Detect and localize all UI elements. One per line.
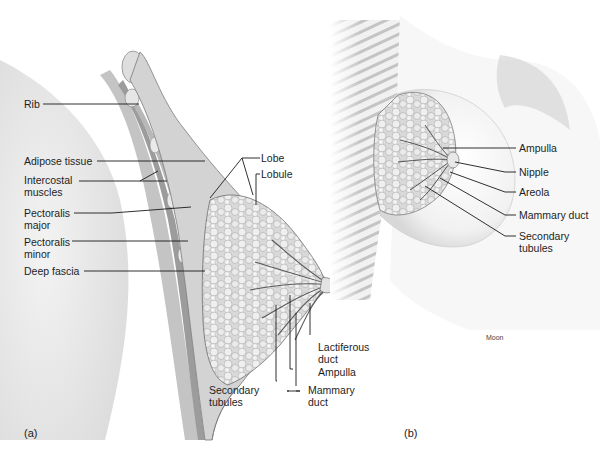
label-lobe: Lobe [261,152,284,164]
label-ampulla-b: Ampulla [519,142,557,154]
label-nipple: Nipple [519,166,549,178]
artist-credit: Moon [486,334,504,341]
label-areola: Areola [519,186,549,198]
anatomy-illustration [0,0,609,454]
label-secondary-tubules-a: Secondary tubules [209,384,261,408]
label-pectoralis-minor: Pectoralis minor [24,236,72,260]
label-lactiferous-duct: Lactiferous duct [318,341,378,365]
label-secondary-tubules-b: Secondary tubules [519,230,579,254]
panel-label-a: (a) [24,427,37,439]
label-deep-fascia: Deep fascia [24,265,79,277]
label-adipose-tissue: Adipose tissue [24,155,92,167]
label-ampulla-a: Ampulla [318,366,356,378]
mammary-gland-figure: Rib Adipose tissue Intercostal muscles P… [0,0,609,454]
label-lobule: Lobule [261,168,293,180]
label-intercostal-muscles: Intercostal muscles [24,174,80,198]
label-pectoralis-major: Pectoralis major [24,207,74,231]
panel-label-b: (b) [404,427,417,439]
label-mammary-duct-b: Mammary duct [519,209,588,221]
label-mammary-duct-a: Mammary duct [308,384,358,408]
panel-b-illustration [330,15,600,330]
label-rib: Rib [24,98,40,110]
